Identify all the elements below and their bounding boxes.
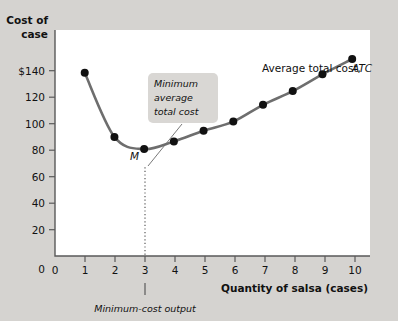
y-tick-label: 20 [32,224,45,236]
footnote-label: Minimum-cost output [94,303,197,314]
callout-line-1: Minimum [154,78,198,89]
y-tick-label: 120 [25,91,45,103]
minimum-point-label: M [130,150,139,162]
x-tick-label: 6 [232,264,239,276]
data-point-marker [110,133,118,141]
x-tick-label: 3 [142,264,149,276]
y-tick-label: $140 [18,65,45,77]
curve-label-symbol: ATC [351,62,373,74]
callout-line-3: total cost [154,106,200,117]
x-tick-label: 8 [292,264,299,276]
data-point-marker [81,69,89,77]
x-tick-label: 9 [322,264,329,276]
y-tick-label: 40 [32,197,45,209]
callout-minimum-average-total-cost: Minimum average total cost [148,73,218,123]
data-point-marker [140,145,148,153]
y-tick-label-zero: 0 [38,263,45,275]
atc-chart: $140 120 100 80 60 40 20 0 0 1 2 3 4 5 6… [0,0,398,321]
data-point-marker [289,87,297,95]
data-point-marker [229,118,237,126]
y-tick-label: 80 [32,144,45,156]
x-tick-label: 2 [112,264,119,276]
x-tick-label: 4 [172,264,179,276]
x-tick-label: 5 [202,264,209,276]
x-tick-label: 1 [82,264,89,276]
x-tick-label: 7 [262,264,269,276]
data-point-marker [259,101,267,109]
x-tick-label: 0 [52,264,59,276]
data-point-marker [170,137,178,145]
curve-label: Average total cost, ATC [262,62,373,74]
x-tick-label: 10 [348,264,361,276]
y-axis-title-line1: Cost of [6,14,48,26]
y-tick-label: 100 [25,118,45,130]
y-axis-title-line2: case [21,28,48,40]
x-axis-title: Quantity of salsa (cases) [221,282,368,294]
data-point-marker [200,127,208,135]
callout-line-2: average [154,92,193,103]
curve-label-text: Average total cost, [262,62,361,74]
y-tick-label: 60 [32,171,45,183]
